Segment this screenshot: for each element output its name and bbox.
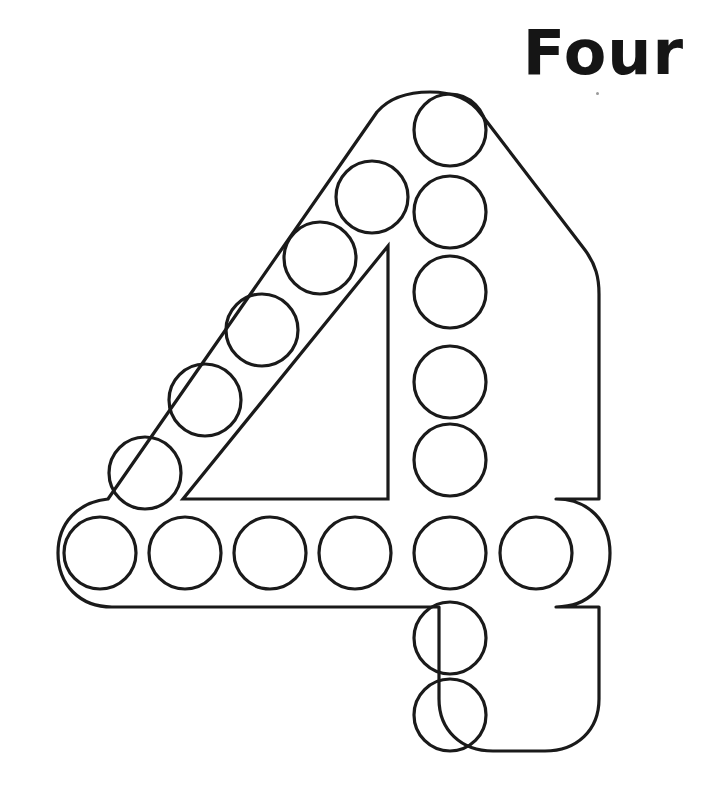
dot-circle[interactable] [149,517,221,589]
dot-circle[interactable] [414,517,486,589]
dot-circle[interactable] [414,602,486,674]
dot-circle[interactable] [414,176,486,248]
dot-circle[interactable] [284,222,356,294]
scan-speck [596,92,599,95]
dot-circle[interactable] [414,256,486,328]
dot-circle[interactable] [414,424,486,496]
worksheet-page: Four [0,0,718,810]
numeral-four-outline [58,92,610,751]
dot-circle[interactable] [64,517,136,589]
dot-circle-group [64,94,572,751]
numeral-four-figure [0,0,718,810]
dot-circle[interactable] [169,364,241,436]
dot-circle[interactable] [500,517,572,589]
dot-circle[interactable] [414,346,486,418]
counter-triangle [183,246,388,499]
dot-circle[interactable] [414,679,486,751]
dot-circle[interactable] [414,94,486,166]
dot-circle[interactable] [336,161,408,233]
dot-circle[interactable] [234,517,306,589]
dot-circle[interactable] [226,294,298,366]
dot-circle[interactable] [319,517,391,589]
